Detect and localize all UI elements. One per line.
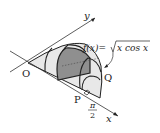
origin-label: O xyxy=(22,68,30,79)
leader-arrow xyxy=(105,52,113,67)
tick-denominator: 2 xyxy=(90,111,95,120)
function-label-lhs: f(x)= xyxy=(82,43,106,53)
point-q-label: Q xyxy=(104,72,112,83)
point-p-label: P xyxy=(74,94,81,105)
solid-of-cross-sections-diagram: O y x Q P π 2 f(x)= x cos x xyxy=(0,0,160,133)
x-axis-arrow-icon xyxy=(113,112,118,116)
y-axis-label: y xyxy=(83,10,90,21)
leader-arrowhead-icon xyxy=(104,64,108,68)
function-label-radicand: x cos x xyxy=(117,43,148,53)
x-axis-label: x xyxy=(106,113,112,124)
tick-numerator: π xyxy=(89,101,96,110)
